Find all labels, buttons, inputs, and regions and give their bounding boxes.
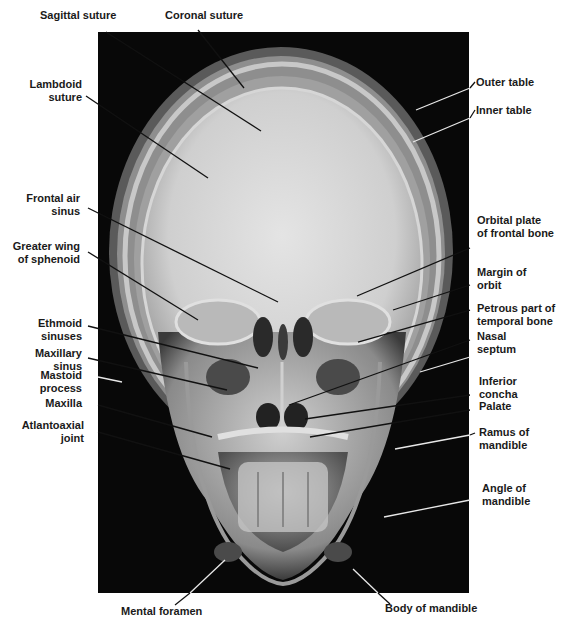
label-frontal-air-sinus: Frontal air sinus	[26, 192, 80, 218]
label-orbital-plate-of-frontal-bone: Orbital plate of frontal bone	[477, 214, 554, 240]
label-mental-foramen: Mental foramen	[121, 605, 202, 618]
label-maxilla: Maxilla	[45, 397, 82, 410]
label-mastoid-process: Mastoid process	[40, 369, 82, 395]
label-inferior-concha: Inferior concha	[479, 375, 518, 401]
label-ethmoid-sinuses: Ethmoid sinuses	[38, 317, 82, 343]
label-margin-of-orbit: Margin of orbit	[477, 266, 527, 292]
label-palate: Palate	[479, 400, 511, 413]
label-greater-wing-of-sphenoid: Greater wing of sphenoid	[13, 240, 80, 266]
label-petrous-part-of-temporal-bone: Petrous part of temporal bone	[477, 302, 555, 328]
label-nasal-septum: Nasal septum	[477, 330, 516, 356]
xray-image	[98, 32, 469, 593]
skull-xray-illustration	[98, 32, 469, 593]
label-lambdoid-suture: Lambdoid suture	[29, 78, 82, 104]
label-angle-of-mandible: Angle of mandible	[482, 482, 530, 508]
label-sagittal-suture: Sagittal suture	[40, 9, 116, 22]
label-ramus-of-mandible: Ramus of mandible	[479, 426, 529, 452]
label-outer-table: Outer table	[476, 76, 534, 89]
label-atlantoaxial-joint: Atlantoaxial joint	[22, 419, 84, 445]
label-inner-table: Inner table	[476, 104, 532, 117]
label-body-of-mandible: Body of mandible	[385, 602, 477, 615]
skull-radiograph-figure: Sagittal suture Coronal suture Lambdoid …	[0, 0, 568, 626]
label-coronal-suture: Coronal suture	[165, 9, 243, 22]
